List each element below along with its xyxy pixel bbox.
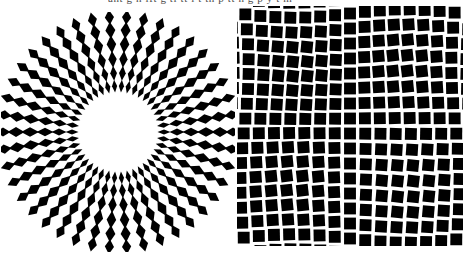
grid-cell: [250, 200, 263, 212]
grid-cell: [430, 50, 443, 63]
radial-diamond: [1, 94, 15, 103]
radial-diamond: [105, 171, 110, 184]
radial-diamond: [161, 95, 173, 103]
grid-cell: [286, 55, 299, 68]
radial-diamond: [72, 232, 81, 246]
grid-cell: [405, 237, 417, 246]
grid-cell: [359, 6, 371, 18]
grid-cell: [249, 185, 262, 198]
radial-diamond: [93, 70, 99, 84]
radial-diamond: [182, 139, 199, 147]
grid-cell: [358, 36, 370, 48]
grid-cell: [431, 81, 444, 93]
grid-cell: [344, 218, 356, 230]
radial-diamond: [8, 78, 22, 86]
grid-cell: [329, 24, 341, 36]
grid-cell: [283, 127, 295, 139]
radial-diamond: [130, 195, 138, 212]
grid-cell: [329, 83, 341, 95]
radial-diamond-illusion-canvas: [1, 12, 235, 252]
radial-diamond: [196, 114, 214, 123]
grid-cell: [390, 143, 403, 156]
grid-cell: [375, 205, 388, 218]
grid-cell: [286, 84, 299, 97]
radial-diamond: [207, 193, 219, 201]
grid-cell: [453, 158, 463, 170]
grid-cell: [268, 127, 280, 139]
grid-cell: [284, 243, 296, 246]
grid-cell: [242, 83, 254, 95]
grid-cell: [315, 55, 328, 68]
grid-cell: [391, 206, 404, 219]
radial-diamond: [1, 162, 15, 171]
grid-cell: [447, 97, 459, 109]
grid-cell: [404, 6, 416, 15]
grid-cell: [272, 69, 285, 82]
radial-diamond: [58, 154, 72, 161]
radial-diamond: [143, 163, 151, 173]
grid-cell: [453, 173, 463, 185]
grid-cell: [239, 113, 251, 125]
radial-diamond: [105, 225, 115, 242]
radial-diamond: [37, 128, 54, 136]
grid-cell: [286, 41, 299, 54]
grid-cell: [251, 142, 263, 154]
grid-cell: [450, 128, 462, 140]
grid-cell: [419, 6, 431, 16]
grid-cell: [401, 33, 414, 46]
grid-cell: [313, 214, 325, 226]
grid-cell: [344, 233, 356, 245]
grid-cell: [282, 141, 295, 154]
grid-cell: [315, 98, 327, 110]
radial-diamond: [121, 225, 131, 242]
grid-cell: [254, 245, 266, 246]
radial-diamond: [176, 160, 191, 168]
clipped-running-text-value: ant g h ift g ti tt i t th p tt n g p y …: [108, 0, 292, 4]
grid-cell: [391, 174, 404, 187]
grid-cell: [300, 26, 313, 39]
radial-diamond: [169, 120, 184, 127]
radial-diamond: [156, 18, 165, 32]
grid-cell: [452, 218, 463, 230]
grid-cell: [438, 189, 451, 202]
radial-diamond: [98, 195, 106, 212]
radial-diamond: [77, 188, 86, 203]
radial-diamond: [136, 180, 142, 194]
radial-diamond: [171, 168, 185, 178]
grid-cell: [328, 171, 340, 183]
radial-diamond: [112, 80, 117, 93]
grid-cell: [237, 187, 247, 199]
grid-cell: [434, 6, 446, 17]
grid-cell: [257, 54, 270, 67]
grid-cell: [406, 221, 419, 234]
grid-cell: [315, 40, 328, 53]
radial-diamond: [119, 51, 127, 68]
grid-cell: [237, 52, 240, 64]
radial-diamond: [88, 13, 97, 28]
radial-diamond: [143, 91, 151, 101]
grid-cell: [329, 127, 341, 139]
radial-diamond-illusion: [1, 12, 235, 252]
radial-diamond: [85, 177, 93, 190]
grid-cell: [344, 158, 356, 170]
radial-diamond: [138, 166, 145, 177]
grid-cell: [358, 82, 370, 94]
grid-cell: [416, 34, 429, 47]
grid-cell: [373, 96, 385, 108]
grid-cell: [330, 68, 342, 80]
radial-diamond: [151, 102, 162, 109]
grid-cell: [237, 97, 238, 109]
radial-diamond: [146, 206, 155, 223]
radial-diamond: [58, 77, 70, 89]
grid-cell: [405, 128, 417, 140]
radial-diamond: [164, 154, 178, 161]
radial-diamond: [133, 209, 142, 227]
grid-cell: [375, 159, 388, 172]
radial-diamond: [102, 182, 109, 197]
radial-diamond: [37, 117, 54, 125]
grid-cell: [360, 173, 372, 185]
radial-diamond: [154, 149, 166, 155]
grid-cell: [375, 190, 388, 203]
radial-diamond: [85, 74, 93, 87]
grid-cell: [280, 184, 293, 197]
